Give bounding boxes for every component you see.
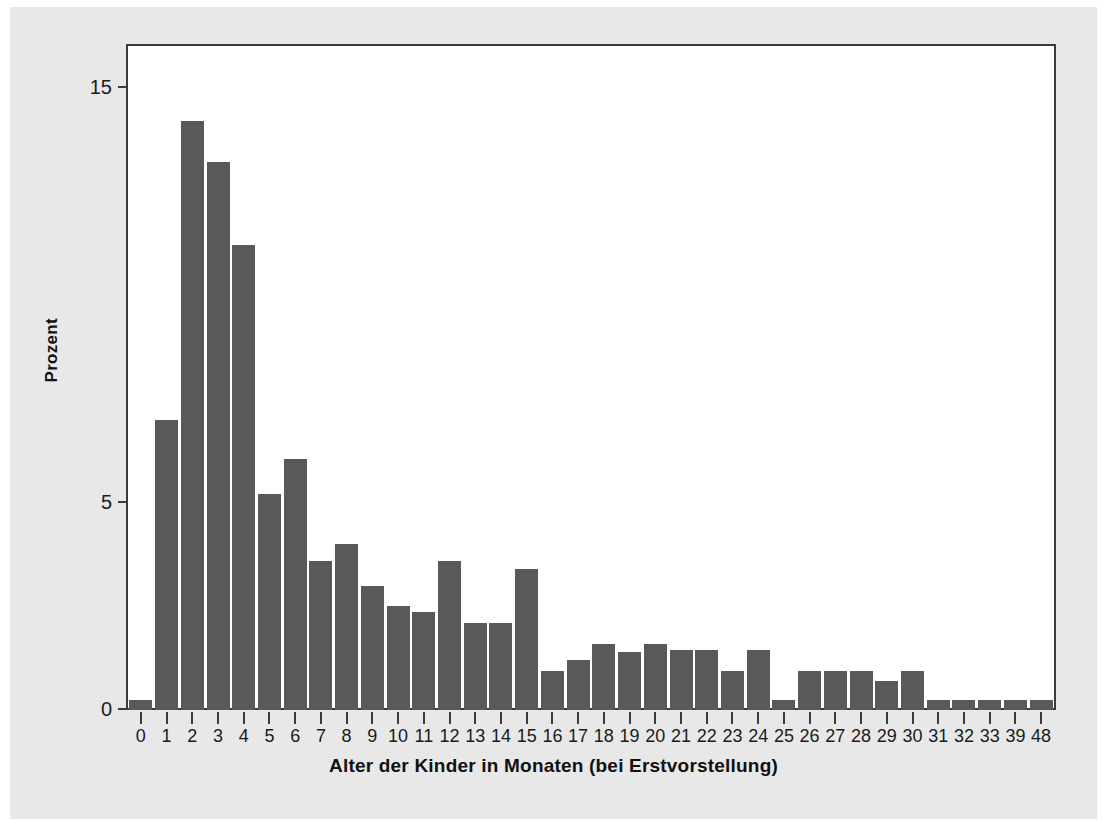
bar-slot: [642, 644, 668, 710]
bar-slot: [617, 652, 643, 710]
x-axis-tick: [731, 712, 733, 724]
x-axis-tick: [397, 712, 399, 724]
x-axis-tick-label: 4: [239, 726, 249, 747]
x-axis-tick-label: 3: [213, 726, 223, 747]
bar: [747, 650, 770, 710]
x-axis-tick: [500, 712, 502, 724]
bar: [824, 671, 847, 710]
x-axis-tick: [886, 712, 888, 724]
bar: [464, 623, 487, 710]
bar-slot: [540, 671, 566, 710]
bar-slot: [411, 612, 437, 710]
x-axis-tick-label: 16: [542, 726, 562, 747]
bar: [901, 671, 924, 710]
x-axis-tick: [268, 712, 270, 724]
x-axis-tick-label: 31: [928, 726, 948, 747]
x-axis-tick: [706, 712, 708, 724]
x-axis-tick-label: 9: [367, 726, 377, 747]
bar: [181, 121, 204, 710]
x-axis-tick: [526, 712, 528, 724]
bar: [387, 606, 410, 710]
bar: [978, 700, 1001, 710]
bar-series: [128, 46, 1054, 710]
x-axis-tick: [294, 712, 296, 724]
x-axis-tick-label: 5: [264, 726, 274, 747]
bar: [335, 544, 358, 710]
bar: [438, 561, 461, 710]
x-axis-tick: [680, 712, 682, 724]
x-axis-tick-label: 13: [465, 726, 485, 747]
x-axis-tick: [474, 712, 476, 724]
bar: [309, 561, 332, 710]
x-axis-tick: [783, 712, 785, 724]
bar-slot: [694, 650, 720, 710]
x-axis-tick-label: 7: [316, 726, 326, 747]
bar: [258, 494, 281, 710]
x-axis-tick-label: 30: [903, 726, 923, 747]
bar: [541, 671, 564, 710]
x-axis-tick-label: 29: [877, 726, 897, 747]
x-axis-tick-label: 25: [774, 726, 794, 747]
x-axis-tick-label: 6: [290, 726, 300, 747]
x-axis-tick-label: 18: [594, 726, 614, 747]
bar-slot: [668, 650, 694, 710]
bar: [618, 652, 641, 710]
x-axis-tick: [834, 712, 836, 724]
bar: [129, 700, 152, 710]
bar-slot: [462, 623, 488, 710]
x-axis-tick-label: 22: [697, 726, 717, 747]
bar: [361, 586, 384, 711]
x-axis-tick-label: 8: [342, 726, 352, 747]
chart-page: Prozent 0515 012345678910111213141516171…: [0, 0, 1107, 829]
bar: [670, 650, 693, 710]
bar-slot: [823, 671, 849, 710]
x-axis-tick-label: 26: [800, 726, 820, 747]
bar-slot: [977, 700, 1003, 710]
x-axis-tick: [140, 712, 142, 724]
x-axis-tick: [603, 712, 605, 724]
x-axis-tick: [423, 712, 425, 724]
x-axis-tick-label: 23: [722, 726, 742, 747]
x-axis-tick-label: 39: [1005, 726, 1025, 747]
bar: [489, 623, 512, 710]
x-axis-tick-label: 0: [136, 726, 146, 747]
bar-slot: [565, 660, 591, 710]
bar-slot: [437, 561, 463, 710]
bar-slot: [128, 700, 154, 710]
bar-slot: [771, 700, 797, 710]
bar-slot: [745, 650, 771, 710]
bar-slot: [385, 606, 411, 710]
bar-slot: [154, 420, 180, 711]
x-axis-tick: [243, 712, 245, 724]
x-axis-tick: [963, 712, 965, 724]
bar: [644, 644, 667, 710]
x-axis-tick-label: 48: [1031, 726, 1051, 747]
bar-slot: [308, 561, 334, 710]
x-axis-tick: [809, 712, 811, 724]
bar: [155, 420, 178, 711]
plot-area: [128, 46, 1054, 710]
bar-slot: [360, 586, 386, 711]
bar-slot: [205, 162, 231, 710]
bar: [772, 700, 795, 710]
bar-slot: [257, 494, 283, 710]
bar: [284, 459, 307, 710]
x-axis-tick-label: 12: [440, 726, 460, 747]
bar: [695, 650, 718, 710]
x-axis-tick-label: 28: [851, 726, 871, 747]
x-axis-tick: [860, 712, 862, 724]
bar: [567, 660, 590, 710]
x-axis-tick: [551, 712, 553, 724]
x-axis-tick-label: 1: [162, 726, 172, 747]
x-axis-title: Alter der Kinder in Monaten (bei Erstvor…: [0, 755, 1107, 777]
bar: [798, 671, 821, 710]
x-axis-tick: [757, 712, 759, 724]
x-axis-tick-label: 21: [671, 726, 691, 747]
x-axis-tick: [217, 712, 219, 724]
bar: [232, 245, 255, 710]
x-axis-tick: [346, 712, 348, 724]
y-axis-title: Prozent: [42, 318, 72, 382]
bar-slot: [848, 671, 874, 710]
bar-slot: [179, 121, 205, 710]
bar: [721, 671, 744, 710]
